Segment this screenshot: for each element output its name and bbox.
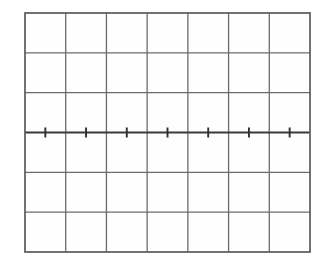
graticule-chart (0, 0, 329, 261)
figure-root (0, 0, 329, 261)
